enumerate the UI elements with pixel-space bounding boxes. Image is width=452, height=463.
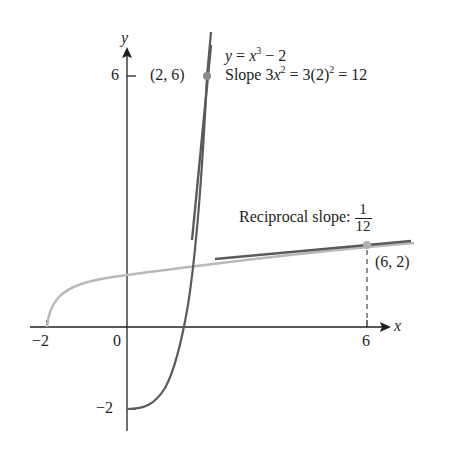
- tick-label-x6: 6: [362, 333, 370, 349]
- tick-label-x0: 0: [113, 333, 121, 349]
- inverse-curve: [47, 243, 414, 327]
- equation-label: y = x3 − 2: [225, 48, 286, 64]
- slope-x: x: [273, 66, 280, 83]
- y-axis-label: y: [121, 30, 128, 46]
- point-a-label: (2, 6): [150, 67, 185, 83]
- reciprocal-slope-label: Reciprocal slope: 112: [239, 202, 372, 234]
- tick-label-yneg2: −2: [96, 400, 113, 416]
- eq-rest: − 2: [261, 47, 286, 64]
- tick-label-y6: 6: [111, 67, 119, 83]
- slope-label: Slope 3x2 = 3(2)2 = 12: [225, 67, 367, 83]
- recip-den: 12: [355, 219, 372, 234]
- slope-end: = 12: [334, 66, 367, 83]
- tick-label-xneg2: −2: [32, 333, 49, 349]
- x-axis-label: x: [394, 318, 401, 334]
- point-a-marker: [203, 72, 211, 80]
- point-b-label: (6, 2): [375, 254, 410, 270]
- slope-mid: = 3(2): [286, 66, 330, 83]
- recip-fraction: 112: [355, 202, 372, 234]
- slope-exp: 2: [281, 64, 286, 75]
- eq-equals: =: [232, 47, 249, 64]
- figure: y x 6 −2 −2 0 6 (2, 6) (6, 2) y = x3 − 2…: [0, 0, 452, 463]
- cubic-curve: [127, 32, 211, 409]
- slope-word: Slope 3: [225, 66, 273, 83]
- recip-num: 1: [355, 202, 372, 219]
- eq-exp: 3: [256, 45, 261, 56]
- point-b-marker: [363, 241, 371, 249]
- recip-text: Reciprocal slope:: [239, 208, 355, 225]
- slope-exp2: 2: [329, 64, 334, 75]
